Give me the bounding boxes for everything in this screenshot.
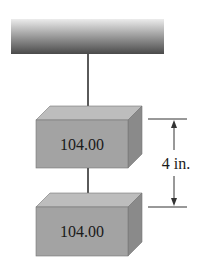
diagram-canvas: 104.00 104.00 4 in. xyxy=(0,0,206,264)
top-block-top-face xyxy=(36,106,142,120)
arrow-up-icon xyxy=(171,120,177,128)
top-block-label: 104.00 xyxy=(60,136,104,153)
arrow-down-icon xyxy=(171,198,177,206)
bottom-block: 104.00 xyxy=(36,193,142,256)
bottom-block-top-face xyxy=(36,193,142,207)
bottom-block-label: 104.00 xyxy=(60,223,104,240)
top-block: 104.00 xyxy=(36,106,142,168)
dimension-label: 4 in. xyxy=(162,155,190,172)
ceiling-bar xyxy=(11,19,164,54)
dimension-annotation: 4 in. xyxy=(148,119,190,207)
